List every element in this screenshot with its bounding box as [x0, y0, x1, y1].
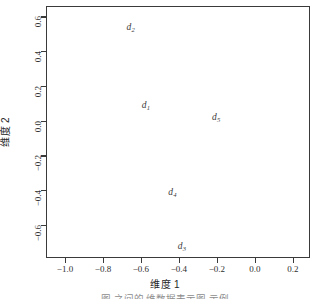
scatter-plot-figure: d2d1d5d4d3 −1.0−0.8−0.6−0.4−0.20.00.2 0.… [0, 0, 330, 299]
data-point-label-subscript: 3 [183, 245, 186, 252]
figure-caption: 图 之间的 维数据表示图 示例 [0, 291, 330, 299]
data-point-label-subscript: 1 [147, 104, 150, 111]
y-tick-label: 0.6 [33, 16, 43, 27]
x-tick-label: −1.0 [57, 264, 73, 274]
data-point-label-subscript: 5 [217, 116, 220, 123]
y-axis-label: 维度 2 [0, 117, 12, 147]
x-tick-label: −0.2 [209, 264, 225, 274]
y-tick-label: 0.0 [33, 121, 43, 132]
data-point-label-subscript: 4 [173, 191, 176, 198]
data-point-label: d3 [178, 242, 186, 252]
y-tick-label: 0.4 [33, 51, 43, 62]
x-tick-label: 0.0 [249, 264, 260, 274]
x-tick-label: 0.2 [287, 264, 298, 274]
data-point-label: d5 [212, 113, 220, 123]
x-tick-label: −0.4 [171, 264, 187, 274]
y-tick-label: −0.2 [33, 155, 43, 171]
y-tick-label: 0.2 [33, 86, 43, 97]
x-tick-mark [179, 258, 180, 263]
x-tick-mark [293, 258, 294, 263]
x-tick-mark [103, 258, 104, 263]
data-point-label-subscript: 2 [131, 26, 134, 33]
x-tick-mark [217, 258, 218, 263]
x-tick-label: −0.8 [95, 264, 111, 274]
data-point-label: d4 [168, 188, 176, 198]
y-tick-label: −0.4 [33, 190, 43, 206]
x-axis-label: 维度 1 [0, 276, 330, 291]
x-tick-label: −0.6 [133, 264, 149, 274]
data-point-label: d1 [142, 101, 150, 111]
plot-panel: d2d1d5d4d3 [46, 6, 310, 258]
x-tick-mark [141, 258, 142, 263]
x-tick-mark [65, 258, 66, 263]
y-tick-label: −0.6 [33, 225, 43, 241]
data-point-label: d2 [127, 23, 135, 33]
x-tick-mark [255, 258, 256, 263]
